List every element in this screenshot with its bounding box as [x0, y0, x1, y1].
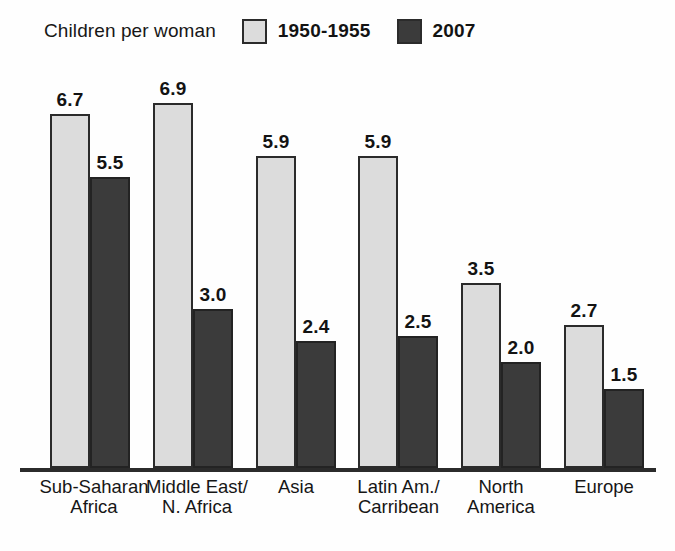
bar-group-3: 5.9 2.5	[358, 78, 438, 468]
bar-slot-4-0: 3.5	[461, 78, 501, 468]
bar-value-0-0: 6.7	[56, 90, 83, 109]
bar-value-0-1: 5.5	[96, 153, 123, 172]
bar-slot-5-0: 2.7	[564, 78, 604, 468]
bar-value-5-0: 2.7	[570, 301, 597, 320]
bar-value-4-1: 2.0	[507, 338, 534, 357]
bar-4-0	[461, 283, 501, 468]
bar-3-0	[358, 156, 398, 468]
x-axis-baseline	[20, 468, 656, 472]
bar-4-1	[501, 362, 541, 468]
bar-0-1	[90, 177, 130, 468]
bar-group-1: 6.9 3.0	[153, 78, 233, 468]
bar-value-5-1: 1.5	[610, 365, 637, 384]
bar-value-1-0: 6.9	[159, 79, 186, 98]
bar-slot-0-1: 5.5	[90, 78, 130, 468]
bar-3-1	[398, 336, 438, 468]
bar-slot-4-1: 2.0	[501, 78, 541, 468]
bar-group-0: 6.7 5.5	[50, 78, 130, 468]
bar-group-5: 2.7 1.5	[564, 78, 644, 468]
bar-value-4-0: 3.5	[467, 259, 494, 278]
bar-slot-1-1: 3.0	[193, 78, 233, 468]
bar-slot-0-0: 6.7	[50, 78, 90, 468]
bar-2-1	[296, 341, 336, 468]
bar-1-1	[193, 309, 233, 468]
bar-slot-1-0: 6.9	[153, 78, 193, 468]
bar-chart: Children per woman 1950-1955 2007 6.7 5.…	[0, 0, 675, 551]
bar-2-0	[256, 156, 296, 468]
bar-1-0	[153, 103, 193, 468]
plot-area: 6.7 5.5 Sub-Saharan Africa 6.9 3.0 Middl…	[0, 0, 675, 551]
bar-value-2-1: 2.4	[302, 317, 329, 336]
bar-value-2-0: 5.9	[262, 132, 289, 151]
bar-group-2: 5.9 2.4	[256, 78, 336, 468]
bar-value-3-1: 2.5	[404, 312, 431, 331]
bar-value-3-0: 5.9	[364, 132, 391, 151]
bar-slot-2-0: 5.9	[256, 78, 296, 468]
bar-slot-5-1: 1.5	[604, 78, 644, 468]
bar-value-1-1: 3.0	[199, 285, 226, 304]
bar-0-0	[50, 114, 90, 468]
category-label-4: North America	[441, 477, 561, 517]
bar-slot-2-1: 2.4	[296, 78, 336, 468]
bar-slot-3-0: 5.9	[358, 78, 398, 468]
category-label-5: Europe	[549, 477, 659, 497]
bar-group-4: 3.5 2.0	[461, 78, 541, 468]
bar-5-0	[564, 325, 604, 468]
bar-5-1	[604, 389, 644, 468]
bar-slot-3-1: 2.5	[398, 78, 438, 468]
